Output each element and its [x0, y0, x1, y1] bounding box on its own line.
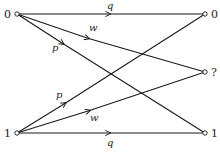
edge-label-q-bottom: q	[107, 137, 113, 148]
edge-label-w-top: w	[89, 22, 98, 33]
output-node-1	[203, 131, 207, 135]
input-label-0: 0	[4, 8, 11, 21]
input-label-1: 1	[4, 127, 11, 140]
channel-diagram: q w p p w q 0 1 0 ? 1	[0, 0, 220, 153]
edge-label-p-top: p	[52, 42, 59, 53]
output-label-1: 1	[211, 127, 218, 140]
input-node-0	[15, 12, 19, 16]
input-node-1	[15, 131, 19, 135]
edge-label-q-top: q	[107, 0, 113, 11]
edge-1-to-erasure	[17, 72, 205, 133]
edge-label-w-bottom: w	[90, 112, 99, 123]
output-label-0: 0	[211, 8, 218, 21]
output-label-erasure: ?	[211, 66, 217, 79]
edge-label-p-bottom: p	[56, 89, 63, 100]
edge-0-to-erasure	[17, 14, 205, 72]
output-node-0	[203, 12, 207, 16]
output-node-erasure	[203, 70, 207, 74]
